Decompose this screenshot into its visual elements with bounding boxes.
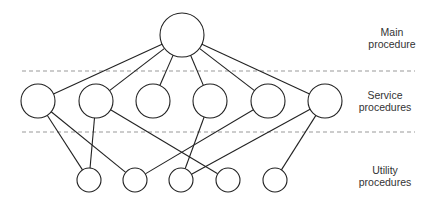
service-node-S1 xyxy=(21,84,55,118)
procedure-nodes xyxy=(21,13,342,192)
utility-procedures-label: Utility procedures xyxy=(340,164,430,188)
utility-label-line1: Utility xyxy=(340,164,430,176)
utility-node-U5 xyxy=(263,168,287,192)
edge-S5-U2 xyxy=(145,110,253,174)
edge-S4-U3 xyxy=(185,117,204,169)
edge-S2-U1 xyxy=(90,118,94,168)
edge-S6-U3 xyxy=(192,109,311,174)
main-label-line1: Main xyxy=(347,26,434,38)
service-node-S6 xyxy=(308,84,342,118)
service-node-S5 xyxy=(251,84,285,118)
utility-node-U2 xyxy=(123,168,147,192)
service-label-line2: procedures xyxy=(340,101,430,113)
edge-S6-U5 xyxy=(281,115,315,169)
utility-node-U3 xyxy=(169,168,193,192)
edge-M-S4 xyxy=(191,55,204,85)
edge-S2-U4 xyxy=(111,110,218,174)
main-label-line2: procedure xyxy=(347,38,434,50)
service-procedures-label: Service procedures xyxy=(340,89,430,113)
main-procedure-label: Main procedure xyxy=(347,26,434,50)
service-label-line1: Service xyxy=(340,89,430,101)
main-node-M xyxy=(160,13,204,57)
utility-label-line2: procedures xyxy=(340,176,430,188)
edge-M-S3 xyxy=(160,55,173,85)
edge-S1-U2 xyxy=(51,112,126,173)
service-node-S4 xyxy=(193,84,227,118)
utility-node-U4 xyxy=(216,168,240,192)
utility-node-U1 xyxy=(77,168,101,192)
service-node-S3 xyxy=(136,84,170,118)
service-node-S2 xyxy=(79,84,113,118)
